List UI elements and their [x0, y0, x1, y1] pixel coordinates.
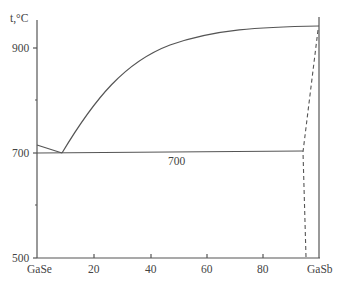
liquidus-left — [37, 145, 62, 153]
x-label-80: 80 — [257, 263, 269, 275]
eutectic-annotation: 700 — [168, 155, 186, 167]
y-axis-title: t,°C — [10, 12, 29, 25]
x-label-60: 60 — [201, 263, 213, 275]
y-label-900: 900 — [12, 42, 30, 54]
x-label-20: 20 — [88, 263, 100, 275]
y-label-700: 700 — [12, 147, 30, 159]
x-label-40: 40 — [145, 263, 157, 275]
liquidus-right — [62, 26, 319, 153]
solubility-limit-dashed — [303, 30, 318, 257]
eutectic-line — [37, 151, 303, 153]
phase-diagram: t,°C 900 700 500 GaSe 20 40 60 80 GaSb 7… — [0, 0, 341, 285]
x-label-gase: GaSe — [27, 263, 52, 275]
x-label-gasb: GaSb — [307, 263, 333, 275]
